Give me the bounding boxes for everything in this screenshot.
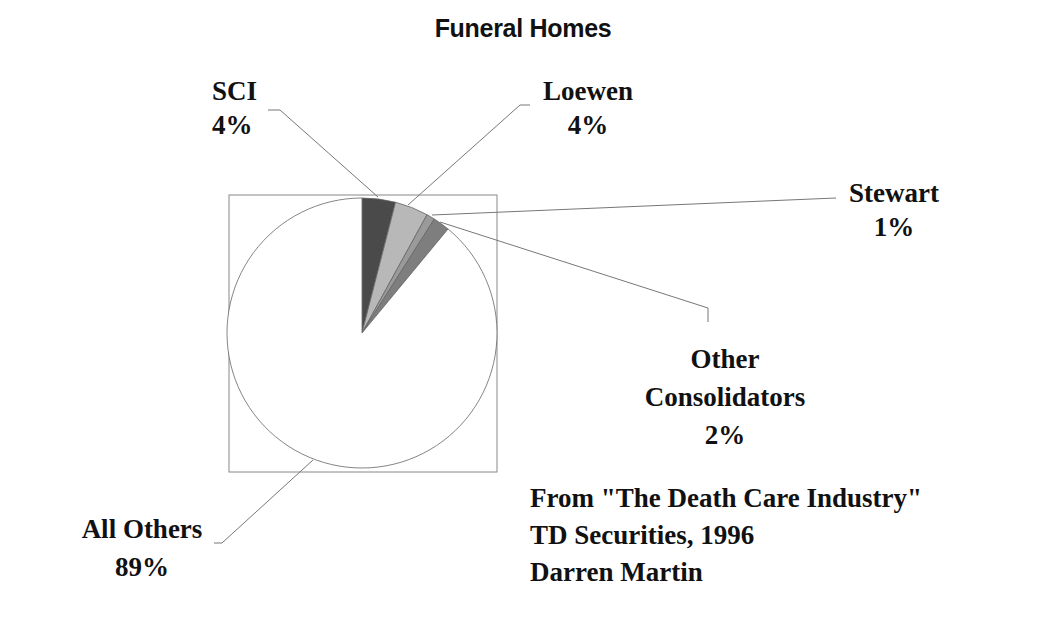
label-all-others-name: All Others bbox=[62, 510, 222, 548]
label-stewart-name: Stewart bbox=[834, 176, 954, 210]
leader-line-sci bbox=[268, 110, 378, 197]
label-other-consolidators: Other Consolidators 2% bbox=[620, 340, 830, 454]
leader-line-loewen bbox=[408, 105, 530, 205]
leader-line-stewart bbox=[432, 198, 836, 215]
pie-slice-all-others bbox=[227, 198, 497, 468]
source-line-3: Darren Martin bbox=[530, 554, 922, 591]
label-all-others: All Others 89% bbox=[62, 510, 222, 586]
label-all-others-pct: 89% bbox=[62, 548, 222, 586]
label-loewen-name: Loewen bbox=[528, 74, 648, 108]
source-note: From "The Death Care Industry" TD Securi… bbox=[530, 480, 922, 591]
label-loewen: Loewen 4% bbox=[528, 74, 648, 142]
label-other-pct: 2% bbox=[620, 416, 830, 454]
label-stewart-pct: 1% bbox=[834, 210, 954, 244]
label-sci-name: SCI bbox=[212, 74, 257, 108]
pie-slices bbox=[227, 198, 497, 468]
label-stewart: Stewart 1% bbox=[834, 176, 954, 244]
source-line-1: From "The Death Care Industry" bbox=[530, 480, 922, 517]
label-sci: SCI 4% bbox=[212, 74, 257, 142]
label-sci-pct: 4% bbox=[212, 108, 257, 142]
source-line-2: TD Securities, 1996 bbox=[530, 517, 922, 554]
label-other-name-line1: Other bbox=[620, 340, 830, 378]
label-other-name-line2: Consolidators bbox=[620, 378, 830, 416]
label-loewen-pct: 4% bbox=[528, 108, 648, 142]
